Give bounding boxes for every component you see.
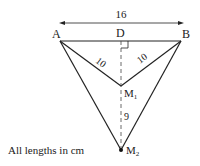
label-d: D: [116, 26, 125, 40]
label-a: A: [52, 27, 61, 41]
segment-bm1: [121, 41, 181, 86]
length-ab-label: 16: [116, 8, 128, 20]
dimension-arrow-ab: [59, 21, 184, 25]
segment-am2: [60, 41, 121, 150]
length-m1m2-label: 9: [124, 111, 129, 122]
segment-am1: [60, 41, 121, 86]
label-m1: M1: [124, 87, 138, 101]
geometry-diagram: 16 A B D M1 M2 10 10 9 All lengths in cm: [0, 0, 200, 166]
units-note: All lengths in cm: [8, 144, 85, 156]
label-m2: M2: [126, 144, 140, 158]
label-b: B: [182, 27, 190, 41]
point-m2-dot: [119, 148, 123, 152]
length-bm1-label: 10: [135, 51, 150, 66]
right-angle-marker: [121, 41, 128, 48]
